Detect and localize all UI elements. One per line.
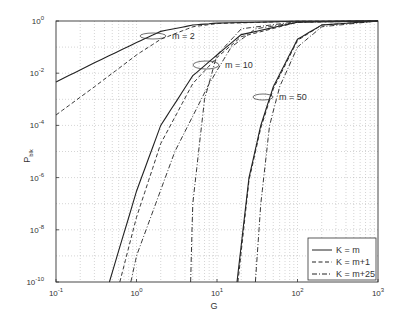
annotation-ellipse: [140, 33, 166, 39]
y-tick-label: 10-4: [30, 119, 45, 130]
legend-label: K = m+25: [336, 269, 375, 279]
x-tick-label: 101: [211, 287, 224, 298]
x-tick-label: 102: [291, 287, 304, 298]
legend-label: K = m: [336, 245, 360, 255]
svg-text:Pblk: Pblk: [22, 148, 34, 163]
annotation-label: m = 10: [225, 60, 253, 70]
annotation-label: m = 50: [279, 92, 307, 102]
chart: 10-1100101102103 10010-210-410-610-810-1…: [0, 0, 402, 326]
x-tick-label: 10-1: [49, 287, 64, 298]
x-tick-label: 103: [372, 287, 385, 298]
x-tick-label: 100: [130, 287, 143, 298]
annotation-label: m = 2: [172, 31, 195, 41]
legend-label: K = m+1: [336, 257, 370, 267]
curve-annotations: m = 2m = 10m = 50: [140, 31, 307, 102]
y-tick-label: 10-8: [30, 224, 45, 235]
y-axis-label: Pblk: [22, 148, 34, 163]
x-axis-label: G: [210, 301, 217, 311]
curve-m-2-k-m-1: [56, 21, 378, 115]
y-tick-label: 10-10: [26, 276, 44, 287]
y-tick-label: 100: [32, 15, 45, 26]
y-tick-label: 10-2: [30, 67, 45, 78]
y-tick-label: 10-6: [30, 172, 45, 183]
legend: K = mK = m+1K = m+25: [308, 238, 376, 280]
